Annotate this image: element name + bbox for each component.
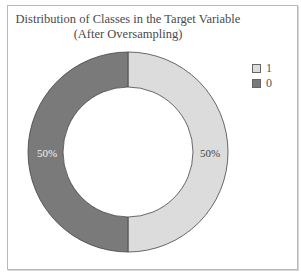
legend-swatch-icon xyxy=(252,79,261,88)
legend: 1 0 xyxy=(252,61,272,91)
legend-label: 0 xyxy=(266,76,272,91)
legend-label: 1 xyxy=(266,61,272,76)
legend-item-0: 0 xyxy=(252,76,272,91)
slice-label-class-1: 50% xyxy=(200,147,220,159)
legend-swatch-icon xyxy=(252,64,261,73)
slice-label-class-0: 50% xyxy=(37,147,57,159)
donut-chart: 50% 50% xyxy=(0,0,301,275)
legend-item-1: 1 xyxy=(252,61,272,76)
